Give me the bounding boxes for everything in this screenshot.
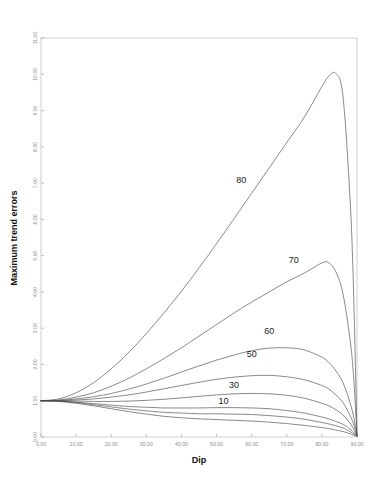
x-tick-label: 80.00 xyxy=(315,441,328,447)
x-tick-label: 50.00 xyxy=(210,441,223,447)
curve-label-10: 10 xyxy=(219,396,229,406)
x-tick-label: 60.00 xyxy=(245,441,258,447)
y-tick-label: 4.00 xyxy=(32,287,38,297)
curve-label-60: 60 xyxy=(264,326,274,336)
y-tick-label: 3.00 xyxy=(32,323,38,333)
y-tick-label: 0.00 xyxy=(32,432,38,442)
curve-label-30: 30 xyxy=(229,380,239,390)
chart-background xyxy=(0,0,389,479)
y-tick-label: 7.00 xyxy=(32,178,38,188)
chart-figure: 0.0010.0020.0030.0040.0050.0060.0070.008… xyxy=(0,0,389,479)
y-tick-label: 6.00 xyxy=(32,214,38,224)
y-tick-label: 8.00 xyxy=(32,142,38,152)
curve-label-80: 80 xyxy=(236,175,246,185)
x-tick-label: 10.00 xyxy=(70,441,83,447)
x-tick-label: 70.00 xyxy=(280,441,293,447)
curve-label-50: 50 xyxy=(247,349,257,359)
y-tick-label: 1.00 xyxy=(32,396,38,406)
y-tick-label: 9.00 xyxy=(32,105,38,115)
x-tick-label: 90.00 xyxy=(351,441,364,447)
y-tick-label: 10.00 xyxy=(32,68,38,81)
x-tick-label: 40.00 xyxy=(175,441,188,447)
y-tick-label: 11.00 xyxy=(32,32,38,45)
x-axis-title: Dip xyxy=(192,455,207,465)
y-tick-label: 5.00 xyxy=(32,250,38,260)
line-chart: 0.0010.0020.0030.0040.0050.0060.0070.008… xyxy=(0,0,389,479)
y-tick-label: 2.00 xyxy=(32,359,38,369)
x-tick-label: 30.00 xyxy=(140,441,153,447)
x-tick-label: 20.00 xyxy=(105,441,118,447)
y-axis-title: Maximum trend errors xyxy=(9,190,19,285)
curve-label-70: 70 xyxy=(289,255,299,265)
